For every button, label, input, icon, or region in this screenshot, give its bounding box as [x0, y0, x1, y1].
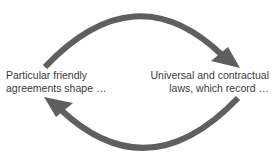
node-left-line-2: agreements shape …: [6, 82, 106, 95]
top-arc-arrow: [45, 16, 222, 67]
node-right-line-2: laws, which record …: [151, 82, 269, 95]
node-left-line-1: Particular friendly: [6, 69, 106, 82]
node-left-label: Particular friendly agreements shape …: [6, 69, 106, 95]
node-right-line-1: Universal and contractual: [151, 69, 269, 82]
bottom-arc-arrow: [60, 98, 238, 148]
node-right-label: Universal and contractual laws, which re…: [151, 69, 269, 95]
